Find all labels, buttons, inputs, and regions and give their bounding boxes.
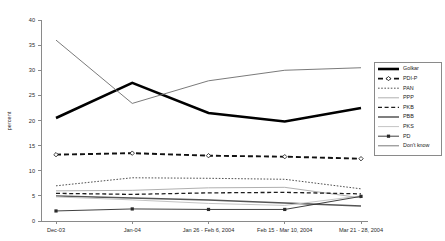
series-golkar (56, 83, 361, 122)
data-point-marker (130, 151, 134, 155)
series-line (56, 83, 361, 122)
y-tick-label: 10 (29, 168, 35, 174)
series-line (56, 192, 361, 194)
legend-label: PD (403, 133, 411, 139)
legend-label: Don't know (403, 142, 430, 148)
data-point-marker (54, 209, 57, 212)
data-point-marker (359, 195, 362, 198)
chart-svg: 0510152025303540 Dec-03Jan-04Jan 26 - Fe… (0, 0, 445, 241)
data-point-marker (359, 156, 363, 160)
x-tick-label: Mar 21 - 28, 2004 (339, 227, 383, 233)
y-axis-ticks: 0510152025303540 (29, 17, 41, 224)
series-line (56, 178, 361, 189)
data-point-marker (283, 208, 286, 211)
y-tick-label: 20 (29, 118, 35, 124)
x-tick-label: Dec-03 (47, 227, 65, 233)
y-tick-label: 35 (29, 42, 35, 48)
data-point-marker (283, 154, 287, 158)
data-point-marker (54, 152, 58, 156)
data-point-marker (206, 153, 210, 157)
y-tick-label: 0 (32, 218, 35, 224)
y-axis-title: percent (6, 111, 12, 130)
y-tick-label: 40 (29, 17, 35, 23)
legend-label: PAN (403, 85, 414, 91)
series-line (56, 40, 361, 103)
series-pan (56, 178, 361, 189)
legend-label: PDI-P (403, 75, 418, 81)
legend-label: PKS (403, 123, 414, 129)
legend-label: PPP (403, 94, 414, 100)
y-tick-label: 25 (29, 92, 35, 98)
legend-marker (387, 135, 390, 138)
data-point-marker (131, 207, 134, 210)
legend-label: PKB (403, 104, 414, 110)
x-tick-label: Jan-04 (124, 227, 141, 233)
y-tick-label: 30 (29, 67, 35, 73)
series-pdi-p (54, 151, 363, 161)
series-don-t-know (56, 40, 361, 103)
legend-label: PBB (403, 113, 414, 119)
x-tick-label: Feb 15 - Mar 10, 2004 (257, 227, 312, 233)
y-tick-label: 15 (29, 143, 35, 149)
line-chart: 0510152025303540 Dec-03Jan-04Jan 26 - Fe… (0, 0, 445, 241)
data-point-marker (207, 208, 210, 211)
series-group (54, 40, 363, 212)
legend-label: Golkar (403, 65, 419, 71)
x-tick-label: Jan 26 - Feb 6, 2004 (183, 227, 235, 233)
series-pkb (56, 192, 361, 194)
chart-legend: GolkarPDI-PPANPPPPKBPBBPKSPDDon't know (374, 62, 441, 155)
y-tick-label: 5 (32, 193, 35, 199)
x-axis-ticks: Dec-03Jan-04Jan 26 - Feb 6, 2004Feb 15 -… (47, 221, 383, 233)
